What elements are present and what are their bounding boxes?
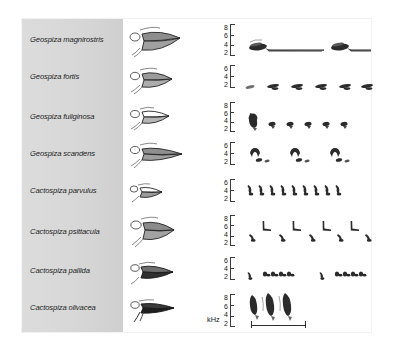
species-row: Geospiza scandens 6 4 2 — [22, 136, 371, 173]
spectrogram-trace — [22, 210, 371, 252]
spectrogram-trace — [22, 173, 371, 210]
species-row: Geospiza magnirostris 8 6 4 2 — [22, 19, 371, 61]
spectrogram-trace — [22, 61, 371, 98]
species-row: Cactospiza psittacula 8 6 4 2 — [22, 210, 371, 252]
species-row: Cactospiza pallida 6 4 2 — [22, 252, 371, 289]
spectrogram-trace — [22, 289, 371, 332]
axis-unit-label: kHz — [207, 315, 220, 324]
finch-song-figure: Geospiza magnirostris 8 6 4 2 — [22, 19, 371, 332]
spectrogram-trace — [22, 136, 371, 173]
species-row: Cactospiza parvulus 6 4 2 — [22, 173, 371, 210]
spectrogram-trace — [22, 252, 371, 289]
scale-bar-line — [252, 325, 305, 326]
species-row: Geospiza fortis 6 4 2 — [22, 61, 371, 98]
species-row: Geospiza fuliginosa 8 6 4 2 — [22, 98, 371, 136]
spectrogram-trace — [22, 98, 371, 136]
spectrogram-trace — [22, 19, 371, 61]
species-row: Cactospiza olivacea 8 6 4 2 — [22, 289, 371, 332]
time-scale-bar — [251, 321, 306, 328]
